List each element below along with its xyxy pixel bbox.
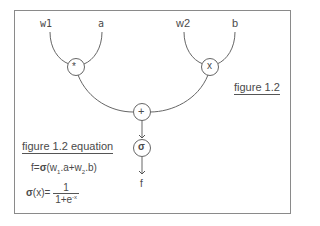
input-w2: w2 bbox=[176, 17, 190, 29]
input-w1: w1 bbox=[40, 18, 52, 29]
equation-f: f=σ(w1.a+w2.b) bbox=[31, 162, 97, 175]
equation-caption: figure 1.2 equation bbox=[22, 140, 113, 154]
input-a: a bbox=[98, 18, 104, 29]
multiply-node-1 bbox=[68, 59, 85, 76]
edge-mul2-add bbox=[150, 75, 208, 112]
edge-mul-add bbox=[78, 75, 133, 112]
figure-caption: figure 1.2 bbox=[234, 81, 280, 95]
sigma-symbol: σ bbox=[26, 187, 33, 198]
edge-w1-mul bbox=[50, 32, 69, 64]
fraction: 1 1+e-x bbox=[53, 182, 79, 205]
edge-b-mul2 bbox=[217, 32, 235, 64]
add-symbol: + bbox=[138, 105, 144, 117]
multiply-symbol-2: x bbox=[207, 60, 212, 71]
input-b: b bbox=[232, 17, 238, 29]
edge-w2-mul2 bbox=[184, 32, 203, 64]
multiply-symbol-1: * bbox=[72, 61, 76, 72]
output-f: f bbox=[140, 178, 143, 189]
equation-sigmoid: σ(x)= 1 1+e-x bbox=[26, 182, 79, 205]
edge-a-mul bbox=[84, 32, 102, 64]
sigmoid-symbol: σ bbox=[138, 141, 145, 152]
